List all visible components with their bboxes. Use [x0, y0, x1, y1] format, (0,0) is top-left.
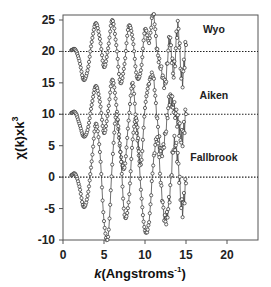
data-point-marker [158, 172, 161, 175]
data-point-marker [169, 36, 172, 39]
data-point-marker [96, 125, 99, 128]
data-point-marker [133, 92, 136, 95]
data-point-marker [184, 178, 187, 181]
data-point-marker [107, 47, 110, 50]
data-point-marker [112, 141, 115, 144]
data-point-marker [88, 179, 91, 182]
data-point-marker [102, 220, 105, 223]
data-point-marker [160, 184, 163, 187]
data-point-marker [129, 94, 132, 97]
data-point-marker [180, 198, 183, 201]
data-point-marker [105, 120, 108, 123]
data-point-marker [177, 27, 180, 30]
data-point-marker [101, 124, 104, 127]
data-point-marker [114, 97, 117, 100]
data-point-marker [148, 212, 151, 215]
data-point-marker [126, 34, 129, 37]
data-point-marker [99, 42, 102, 45]
data-point-marker [136, 126, 139, 129]
data-point-marker [156, 48, 159, 51]
data-point-marker [92, 91, 95, 94]
y-tick-label: 5 [48, 139, 55, 153]
data-point-marker [174, 65, 177, 68]
data-point-marker [174, 47, 177, 50]
data-point-marker [171, 95, 174, 98]
data-point-marker [98, 34, 101, 37]
data-point-marker [184, 182, 187, 185]
data-point-marker [139, 72, 142, 75]
data-point-marker [109, 189, 112, 192]
data-point-marker [183, 66, 186, 69]
data-point-marker [92, 145, 95, 148]
data-point-marker [117, 133, 120, 136]
data-point-marker [113, 86, 116, 89]
data-point-marker [141, 214, 144, 217]
data-point-marker [102, 211, 105, 214]
y-axis-ticks: 2520151050-5-10 [38, 13, 63, 247]
data-point-marker [91, 36, 94, 39]
x-tick-label: 15 [179, 248, 193, 262]
data-point-marker [156, 136, 159, 139]
y-tick-label: 25 [42, 13, 56, 27]
y-axis-title-main: χ(k)xk [12, 121, 27, 160]
data-point-marker [89, 107, 92, 110]
data-point-marker [127, 201, 130, 204]
data-point-marker [113, 32, 116, 35]
data-point-marker [154, 102, 157, 105]
data-point-marker [111, 163, 114, 166]
x-tick-label: 5 [101, 248, 108, 262]
data-point-marker [108, 36, 111, 39]
data-point-marker [87, 60, 90, 63]
x-axis-title-close: ) [181, 266, 185, 281]
data-point-marker [176, 36, 179, 39]
y-tick-label: -5 [44, 202, 55, 216]
data-point-marker [142, 126, 145, 129]
data-point-marker [126, 211, 129, 214]
data-point-marker [149, 31, 152, 34]
data-point-marker [79, 62, 82, 65]
data-point-marker [112, 22, 115, 25]
data-point-marker [122, 72, 125, 75]
data-point-marker [132, 85, 135, 88]
data-point-marker [98, 96, 101, 99]
data-point-marker [117, 65, 120, 68]
data-point-marker [96, 27, 99, 30]
data-point-marker [88, 117, 91, 120]
data-point-marker [115, 50, 118, 53]
data-point-marker [121, 185, 124, 188]
data-point-marker [87, 185, 90, 188]
data-point-marker [138, 164, 141, 167]
data-point-marker [174, 116, 177, 119]
data-point-marker [161, 201, 164, 204]
data-point-marker [137, 147, 140, 150]
data-point-marker [165, 130, 168, 133]
series-labels: WyoAikenFallbrook [190, 23, 237, 164]
data-point-marker [134, 113, 137, 116]
data-point-marker [142, 39, 145, 42]
data-point-marker [133, 102, 136, 105]
data-point-marker [129, 170, 132, 173]
data-point-marker [139, 188, 142, 191]
data-point-marker [178, 134, 181, 137]
data-point-marker [150, 194, 153, 197]
data-point-marker [98, 100, 101, 103]
data-point-marker [181, 86, 184, 89]
data-point-marker [162, 143, 165, 146]
data-point-marker [184, 108, 187, 111]
data-point-marker [130, 29, 133, 32]
data-point-marker [172, 76, 175, 79]
data-point-marker [173, 101, 176, 104]
data-point-marker [101, 199, 104, 202]
data-point-marker [116, 118, 119, 121]
x-axis-ticks: 05101520 [60, 240, 234, 262]
data-point-marker [143, 106, 146, 109]
data-point-marker [92, 95, 95, 98]
data-point-marker [113, 91, 116, 94]
data-point-marker [146, 228, 149, 231]
data-point-marker [105, 55, 108, 58]
data-point-marker [90, 160, 93, 163]
data-point-marker [135, 119, 138, 122]
data-point-marker [122, 207, 125, 210]
data-point-marker [133, 57, 136, 60]
data-point-marker [87, 65, 90, 68]
